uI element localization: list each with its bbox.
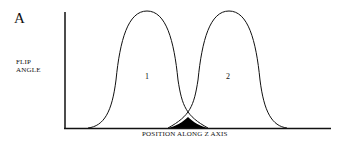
- flip-angle-plot: [0, 0, 342, 144]
- x-axis-label: POSITION ALONG Z AXIS: [142, 130, 228, 138]
- slice-profile-1: [88, 11, 208, 128]
- peak-label-2: 2: [226, 72, 230, 81]
- peak-label-1: 1: [145, 72, 149, 81]
- overlap-region: [168, 117, 208, 128]
- slice-profile-2: [168, 11, 287, 128]
